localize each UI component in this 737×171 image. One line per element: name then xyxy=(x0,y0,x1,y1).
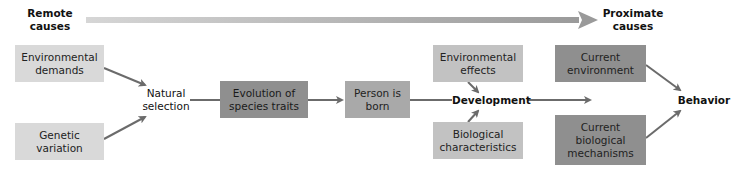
remote-causes-label: Remote causes xyxy=(20,7,80,33)
edge-currentenv-behavior xyxy=(646,65,680,90)
node-genetic-variation: Genetic variation xyxy=(15,123,104,160)
edge-biochar-development xyxy=(468,111,478,122)
node-current-biological-mechanisms: Current biological mechanisms xyxy=(555,115,646,165)
node-label: Current biological mechanisms xyxy=(563,121,639,160)
node-label: Behavior xyxy=(678,94,731,106)
proximate-causes-label: Proximate causes xyxy=(593,7,673,33)
causal-chain-diagram: Remote causes Proximate causes Environme… xyxy=(0,0,737,171)
node-label: Development xyxy=(452,94,531,106)
edge-genetic-naturalsel xyxy=(104,117,145,139)
node-development: Development xyxy=(452,94,528,107)
node-natural-selection: Natural selection xyxy=(138,87,194,113)
node-label: Environmental demands xyxy=(18,51,101,77)
node-evolution-species-traits: Evolution of species traits xyxy=(220,81,308,118)
node-behavior: Behavior xyxy=(676,94,732,107)
node-person-is-born: Person is born xyxy=(345,81,410,118)
node-environmental-demands: Environmental demands xyxy=(15,45,104,82)
node-label: Evolution of species traits xyxy=(227,87,301,113)
node-label: Current environment xyxy=(561,51,641,77)
node-label: Biological characteristics xyxy=(436,128,520,154)
node-current-environment: Current environment xyxy=(555,45,646,82)
node-label: Person is born xyxy=(352,87,404,113)
node-label: Natural selection xyxy=(138,87,194,113)
timeline-arrow xyxy=(86,11,598,29)
edge-curbio-behavior xyxy=(646,111,680,138)
edge-envfx-development xyxy=(468,82,478,92)
node-environmental-effects: Environmental effects xyxy=(433,45,523,82)
edge-envdemands-naturalsel xyxy=(104,68,145,85)
node-label: Environmental effects xyxy=(436,51,520,77)
node-label: Genetic variation xyxy=(35,129,85,155)
node-biological-characteristics: Biological characteristics xyxy=(433,122,523,159)
